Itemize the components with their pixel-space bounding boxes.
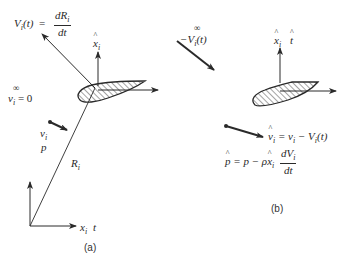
panel-a: [30, 34, 158, 226]
airfoil-a: [78, 81, 145, 102]
inertial-axis-label: xi t: [80, 222, 96, 236]
panel-b: [177, 41, 336, 137]
airfoil-b: [253, 82, 318, 106]
position-label: Ri: [71, 158, 80, 172]
freestream-label-b: ∞ −Vi(t): [180, 34, 207, 48]
velocity-vector-V: [42, 34, 95, 88]
velocity-equation: Vi(t) = dRidt: [14, 10, 71, 38]
body-axis-label-b: xi t: [274, 35, 293, 49]
pressure-equation: p = p − ρxi dVidt: [225, 148, 296, 176]
pressure-label-a: p: [41, 142, 47, 153]
freestream-label-a: ∞ vi = 0: [8, 93, 32, 107]
relative-velocity-equation: vi = vi − Vi(t): [268, 131, 327, 145]
position-vector: [30, 88, 95, 226]
local-velocity-arrow: [50, 122, 67, 130]
caption-a: (a): [84, 242, 96, 253]
caption-b: (b): [271, 203, 283, 214]
body-axis-label-a: xi: [93, 38, 100, 52]
relative-velocity-arrow: [226, 126, 263, 137]
